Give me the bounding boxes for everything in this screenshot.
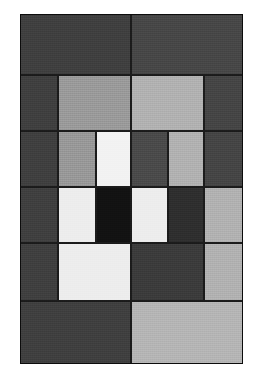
cell-3-2 [59,132,95,186]
cell-2-3 [132,76,203,130]
cell-5-1 [21,244,57,300]
image-canvas [0,0,256,381]
cell-5-4 [205,244,242,300]
cell-5-2 [59,244,130,300]
cell-3-6 [205,132,242,186]
cell-3-3 [97,132,130,186]
cell-3-1 [21,132,57,186]
cell-2-1 [21,76,57,130]
cell-4-4 [132,188,167,242]
cell-1-1 [21,15,130,74]
cell-2-4 [205,76,242,130]
cell-4-2 [59,188,95,242]
cell-3-5 [169,132,203,186]
cell-4-1 [21,188,57,242]
cell-6-2 [132,302,242,363]
cell-5-3 [132,244,203,300]
cell-4-6 [205,188,242,242]
geometric-grid-artwork [20,14,243,364]
cell-6-1 [21,302,130,363]
cell-4-3 [97,188,130,242]
cell-2-2 [59,76,130,130]
cell-1-2 [132,15,242,74]
cell-3-4 [132,132,167,186]
cell-4-5 [169,188,203,242]
